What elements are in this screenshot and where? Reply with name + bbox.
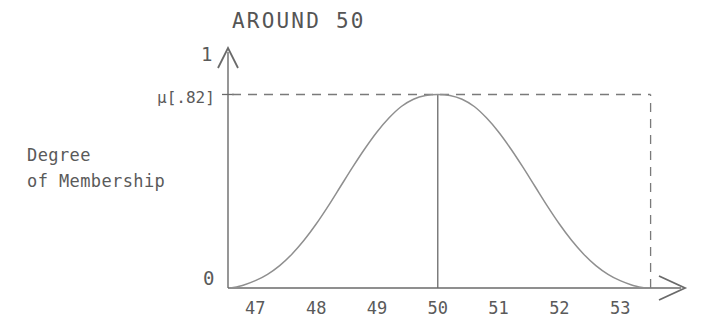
y-axis-max-label: 1 — [201, 43, 212, 65]
x-tick-label-49: 49 — [367, 298, 387, 318]
x-tick-label-50: 50 — [428, 298, 448, 318]
chart-figure: AROUND 50 1 μ[.82] 0 Degreeof Membership… — [0, 0, 702, 333]
x-tick-label-51: 51 — [488, 298, 508, 318]
x-tick-label-47: 47 — [245, 298, 265, 318]
y-axis-title-line-1: Degree — [27, 145, 91, 165]
x-tick-label-52: 52 — [549, 298, 569, 318]
chart-title: AROUND 50 — [232, 9, 366, 33]
y-axis-zero-label: 0 — [203, 267, 214, 289]
y-axis-title: Degreeof Membership — [27, 142, 165, 194]
x-tick-label-53: 53 — [610, 298, 630, 318]
y-axis-mu-annotation-label: μ[.82] — [157, 88, 215, 107]
x-tick-label-48: 48 — [306, 298, 326, 318]
y-axis-title-line-2: of Membership — [27, 171, 165, 191]
